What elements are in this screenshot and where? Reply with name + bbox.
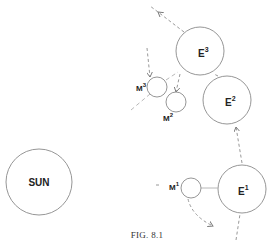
moon-m1-label: M1 <box>169 181 180 192</box>
moon-m3: M3 <box>136 77 167 97</box>
earth-e2: E2 <box>203 76 251 124</box>
m3-line-to-earth <box>166 72 178 80</box>
earth-e3-label: E3 <box>198 46 209 59</box>
figure-caption: FIG. 8.1 <box>131 230 164 240</box>
moon-m3-circle <box>147 77 167 97</box>
sun: SUN <box>6 149 72 215</box>
m1-orbit-arrow <box>188 199 213 226</box>
earth-orbit-e1-to-e2 <box>236 127 242 163</box>
earth-orbit-tail <box>150 6 158 12</box>
earth-orbit-e2-to-e3 <box>214 74 218 76</box>
m2-incoming-arrow <box>176 74 180 92</box>
moon-m3-label: M3 <box>136 82 147 93</box>
earth-orbit-incoming <box>236 214 240 240</box>
m3-incoming-arrow <box>147 48 150 77</box>
moon-m2-label: M2 <box>163 112 174 123</box>
moon-m1: M1 <box>169 178 201 198</box>
earth-e1: E1 <box>218 165 266 213</box>
moon-m2-circle <box>166 92 186 112</box>
earth-orbit-outgoing <box>158 12 184 32</box>
moon-m1-circle <box>181 178 201 198</box>
diagram-canvas: SUN E3 E2 E1 M1 M3 M2 FIG. 8.1 <box>0 0 270 247</box>
earth-e1-label: E1 <box>238 184 249 197</box>
earth-e2-label: E2 <box>225 95 236 108</box>
moon-m2: M2 <box>163 92 186 123</box>
m3-line-to-sun <box>131 94 150 110</box>
sun-label: SUN <box>28 177 49 188</box>
earth-e3: E3 <box>176 27 224 75</box>
